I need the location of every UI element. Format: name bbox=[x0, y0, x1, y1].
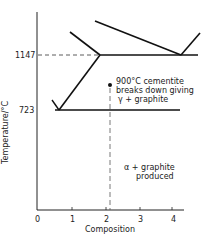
liquidus-right-line bbox=[95, 21, 181, 55]
x-axis-label: Composition bbox=[85, 225, 135, 234]
alpha-boundary-tick bbox=[52, 100, 59, 110]
x-tick-4: 4 bbox=[171, 215, 176, 224]
annotation-alpha-1: α + graphite bbox=[124, 163, 175, 172]
austenite-boundary-line bbox=[59, 55, 100, 110]
x-tick-3: 3 bbox=[138, 215, 143, 224]
y-tick-1147: 1147 bbox=[15, 51, 35, 60]
annotation-alpha-2: produced bbox=[136, 172, 174, 181]
y-tick-723: 723 bbox=[19, 106, 34, 115]
annotation-cementite-2: breaks down giving bbox=[116, 86, 194, 95]
phase-diagram bbox=[0, 0, 212, 243]
liquidus-left-line bbox=[70, 32, 100, 55]
x-tick-1: 1 bbox=[70, 215, 75, 224]
annotation-cementite-3: γ + graphite bbox=[118, 95, 168, 104]
x-tick-0: 0 bbox=[35, 215, 40, 224]
composition-marker-dot bbox=[108, 83, 112, 87]
x-tick-2: 2 bbox=[104, 215, 109, 224]
y-axis-label: Temperature/°C bbox=[1, 101, 10, 164]
graphite-liquidus-line bbox=[181, 33, 200, 55]
annotation-cementite-1: 900°C cementite bbox=[116, 77, 184, 86]
